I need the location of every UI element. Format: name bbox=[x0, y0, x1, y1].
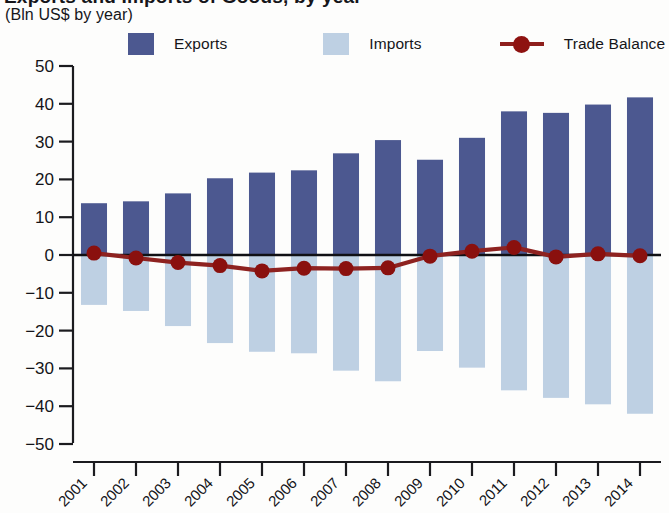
x-tick-label: 2012 bbox=[517, 474, 553, 510]
x-tick-label: 2008 bbox=[349, 474, 385, 510]
y-tick-label: 40 bbox=[35, 95, 54, 114]
trade-balance-point bbox=[339, 261, 354, 276]
imports-bar bbox=[417, 255, 443, 351]
x-tick-label: 2004 bbox=[181, 474, 217, 510]
trade-balance-point bbox=[87, 246, 102, 261]
exports-bar bbox=[627, 97, 653, 255]
imports-bar bbox=[627, 255, 653, 414]
chart-svg: 50403020100−10−20−30−40−50 2001200220032… bbox=[0, 0, 669, 513]
exports-bar bbox=[585, 105, 611, 255]
imports-bar bbox=[81, 255, 107, 305]
trade-balance-point bbox=[423, 249, 438, 264]
chart-page: Exports and Imports of Goods, by year (B… bbox=[0, 0, 669, 513]
y-tick-label: −20 bbox=[25, 322, 54, 341]
trade-balance-point bbox=[591, 246, 606, 261]
y-tick-label: −50 bbox=[25, 435, 54, 454]
x-tick-label: 2014 bbox=[601, 474, 637, 510]
exports-bar bbox=[417, 160, 443, 255]
x-tick-label: 2007 bbox=[307, 474, 343, 510]
exports-bar bbox=[165, 193, 191, 255]
exports-bar bbox=[459, 138, 485, 255]
trade-balance-point bbox=[549, 249, 564, 264]
x-axis-ticks bbox=[94, 462, 640, 476]
y-tick-label: 30 bbox=[35, 133, 54, 152]
y-axis-ticks bbox=[59, 66, 73, 444]
plot-area: 50403020100−10−20−30−40−50 2001200220032… bbox=[0, 0, 669, 513]
x-tick-label: 2001 bbox=[55, 474, 91, 510]
imports-bar bbox=[501, 255, 527, 390]
trade-balance-point bbox=[297, 261, 312, 276]
imports-bar bbox=[459, 255, 485, 368]
y-tick-label: 50 bbox=[35, 57, 54, 76]
trade-balance-point bbox=[129, 251, 144, 266]
imports-bars bbox=[81, 255, 653, 414]
x-axis-labels: 2001200220032004200520062007200820092010… bbox=[55, 474, 637, 510]
x-tick-label: 2006 bbox=[265, 474, 301, 510]
y-tick-label: 10 bbox=[35, 208, 54, 227]
exports-bar bbox=[207, 178, 233, 255]
exports-bars bbox=[81, 97, 653, 255]
x-tick-label: 2009 bbox=[391, 474, 427, 510]
y-tick-label: −40 bbox=[25, 397, 54, 416]
x-tick-label: 2003 bbox=[139, 474, 175, 510]
exports-bar bbox=[333, 153, 359, 255]
imports-bar bbox=[585, 255, 611, 404]
trade-balance-point bbox=[255, 263, 270, 278]
y-axis-labels: 50403020100−10−20−30−40−50 bbox=[25, 57, 54, 454]
x-tick-label: 2005 bbox=[223, 474, 259, 510]
trade-balance-point bbox=[171, 255, 186, 270]
exports-bar bbox=[501, 111, 527, 255]
x-tick-label: 2010 bbox=[433, 474, 469, 510]
exports-bar bbox=[249, 173, 275, 255]
trade-balance-point bbox=[507, 240, 522, 255]
x-tick-label: 2013 bbox=[559, 474, 595, 510]
x-tick-label: 2011 bbox=[475, 474, 510, 509]
trade-balance-point bbox=[465, 244, 480, 259]
exports-bar bbox=[291, 170, 317, 255]
y-tick-label: 0 bbox=[45, 246, 54, 265]
imports-bar bbox=[543, 255, 569, 398]
x-tick-label: 2002 bbox=[97, 474, 133, 510]
exports-bar bbox=[375, 140, 401, 255]
y-tick-label: 20 bbox=[35, 170, 54, 189]
trade-balance-point bbox=[213, 258, 228, 273]
y-tick-label: −10 bbox=[25, 284, 54, 303]
trade-balance-point bbox=[633, 248, 648, 263]
y-tick-label: −30 bbox=[25, 359, 54, 378]
trade-balance-point bbox=[381, 260, 396, 275]
exports-bar bbox=[543, 113, 569, 255]
exports-bar bbox=[123, 201, 149, 255]
